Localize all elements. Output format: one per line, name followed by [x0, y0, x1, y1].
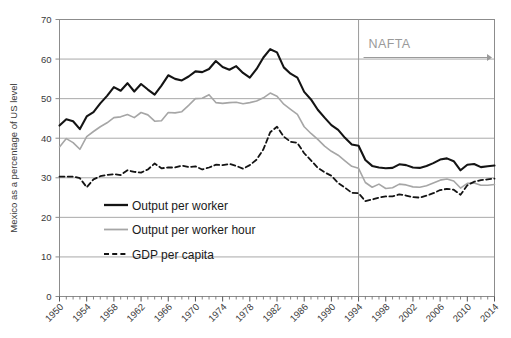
- y-tick-label-10: 10: [41, 251, 52, 262]
- y-tick-label-60: 60: [41, 54, 52, 65]
- y-tick-label-0: 0: [46, 291, 51, 302]
- y-tick-label-20: 20: [41, 212, 52, 223]
- line-chart: 010203040506070 195019541958196219661970…: [0, 0, 511, 338]
- legend-label-0: Output per worker: [132, 199, 228, 213]
- legend-label-2: GDP per capita: [132, 248, 214, 262]
- nafta-label: NAFTA: [369, 37, 411, 51]
- y-tick-label-70: 70: [41, 14, 52, 25]
- y-tick-label-50: 50: [41, 93, 52, 104]
- y-axis-title-text: Mexico as a percentage of US level: [8, 83, 19, 232]
- y-tick-label-30: 30: [41, 172, 52, 183]
- y-axis-title: Mexico as a percentage of US level: [8, 83, 19, 232]
- legend-label-1: Output per worker hour: [132, 223, 255, 237]
- chart-container: 010203040506070 195019541958196219661970…: [0, 0, 511, 338]
- chart-background: [0, 0, 511, 338]
- y-tick-label-40: 40: [41, 133, 52, 144]
